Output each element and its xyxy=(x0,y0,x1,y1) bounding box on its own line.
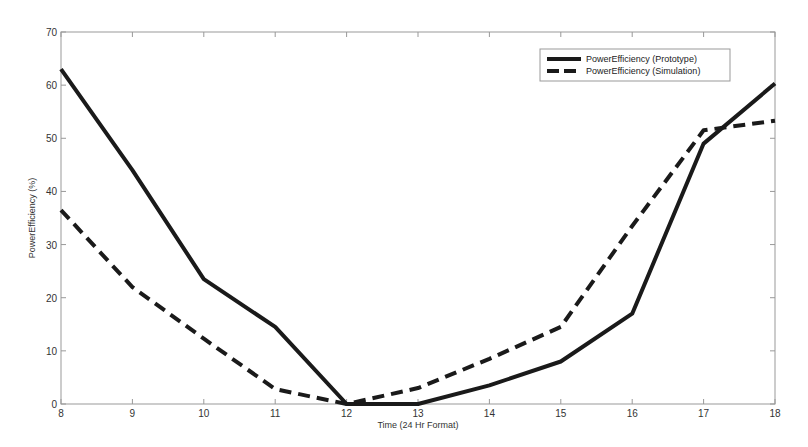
x-tick-label: 12 xyxy=(341,408,353,419)
legend-label: PowerEfficiency (Simulation) xyxy=(586,66,700,76)
x-tick-label: 14 xyxy=(484,408,496,419)
prototype-line xyxy=(61,69,775,404)
x-tick-label: 13 xyxy=(412,408,424,419)
y-tick-label: 30 xyxy=(46,240,58,251)
x-tick-label: 9 xyxy=(130,408,136,419)
data-series xyxy=(61,69,775,404)
line-chart: 89101112131415161718010203040506070 Powe… xyxy=(0,0,808,447)
legend: PowerEfficiency (Prototype)PowerEfficien… xyxy=(540,49,730,81)
y-axis-label: PowerEfficiency (%) xyxy=(27,178,37,258)
x-tick-label: 8 xyxy=(58,408,64,419)
y-tick-label: 70 xyxy=(46,27,58,38)
y-tick-label: 20 xyxy=(46,293,58,304)
y-tick-label: 40 xyxy=(46,186,58,197)
y-tick-label: 50 xyxy=(46,133,58,144)
x-tick-label: 18 xyxy=(769,408,781,419)
simulation-line xyxy=(61,121,775,404)
plot-frame xyxy=(61,32,775,404)
x-tick-label: 11 xyxy=(270,408,281,419)
x-tick-label: 16 xyxy=(627,408,639,419)
x-tick-label: 10 xyxy=(198,408,210,419)
y-tick-label: 60 xyxy=(46,80,58,91)
x-tick-label: 17 xyxy=(698,408,710,419)
legend-label: PowerEfficiency (Prototype) xyxy=(586,54,697,64)
x-axis-label: Time (24 Hr Format) xyxy=(377,420,458,430)
y-tick-label: 10 xyxy=(46,346,58,357)
x-tick-label: 15 xyxy=(555,408,567,419)
y-tick-label: 0 xyxy=(51,399,57,410)
